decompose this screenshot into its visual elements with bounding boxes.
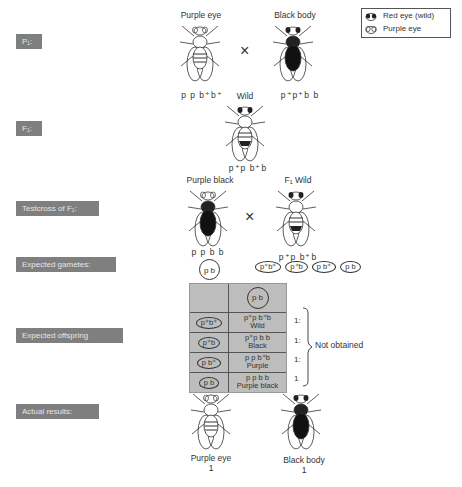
fly-purple-eye-result bbox=[191, 388, 235, 454]
fly-wild-f1 bbox=[225, 100, 269, 166]
red-eye-icon bbox=[365, 11, 377, 21]
legend-box: Red eye (wild) Purple eye bbox=[361, 8, 451, 38]
ratio: 1: bbox=[294, 316, 301, 325]
stage-label-gametes: Expected gametes: bbox=[16, 257, 116, 272]
legend-item-purple-eye: Purple eye bbox=[362, 22, 450, 35]
offspring-phenotype: Purple black bbox=[229, 382, 286, 390]
f1-genotype: p⁺p b⁺b bbox=[226, 163, 270, 173]
legend-label: Red eye (wild) bbox=[383, 11, 434, 20]
brace-icon bbox=[302, 307, 314, 387]
fly-purple-eye bbox=[180, 20, 224, 86]
gamete: p⁺b⁺ bbox=[196, 317, 222, 329]
legend-label: Purple eye bbox=[383, 24, 421, 33]
fly-f1-wild bbox=[276, 185, 320, 251]
p1-right-caption: Black body bbox=[270, 10, 320, 20]
p1-left-caption: Purple eye bbox=[176, 10, 226, 20]
gamete: p⁺b bbox=[285, 261, 307, 273]
fly-black-body-result bbox=[281, 388, 325, 454]
stage-label-f1: F₁: bbox=[16, 121, 42, 136]
punnett-header-gamete: p b bbox=[247, 287, 269, 309]
fly-black-body bbox=[273, 20, 317, 86]
gamete: p b bbox=[340, 261, 360, 273]
purple-eye-icon bbox=[365, 24, 377, 34]
testcross-right-caption: F₁ Wild bbox=[278, 175, 318, 185]
gamete: p b bbox=[199, 377, 219, 389]
offspring-phenotype: Black bbox=[229, 342, 286, 350]
punnett-corner bbox=[190, 284, 229, 312]
gamete: p b⁺ bbox=[197, 357, 221, 369]
testcross-left-genotype: p p b b bbox=[188, 247, 228, 257]
actual-left-count: 1 bbox=[206, 463, 216, 473]
not-obtained-note: Not obtained bbox=[315, 340, 363, 350]
gamete: p⁺b bbox=[198, 337, 220, 349]
offspring-phenotype: Purple bbox=[229, 362, 286, 370]
offspring-phenotype: Wild bbox=[229, 322, 286, 330]
testcross-left-caption: Purple black bbox=[182, 175, 238, 185]
legend-item-red-eye: Red eye (wild) bbox=[362, 9, 450, 22]
p1-left-genotype: p p b⁺b⁺ bbox=[174, 90, 230, 100]
punnett-header: p b bbox=[190, 284, 286, 312]
actual-left-caption: Purple eye bbox=[186, 453, 236, 463]
stage-label-testcross: Testcross of F₁: bbox=[16, 201, 99, 216]
gamete: p⁺b⁺ bbox=[255, 261, 281, 273]
stage-label-offspring: Expected offspring bbox=[16, 328, 123, 343]
gametes-f1-list: p⁺b⁺ p⁺b p b⁺ p b bbox=[255, 261, 361, 273]
stage-label-actual: Actual results: bbox=[16, 404, 99, 419]
actual-right-count: 1 bbox=[299, 465, 309, 475]
ratio: 1 bbox=[294, 374, 298, 383]
gamete: p b⁺ bbox=[312, 261, 336, 273]
punnett-square: p b p⁺b⁺ p⁺p b⁺bWild p⁺b p⁺p b bBlack p … bbox=[189, 283, 287, 393]
p1-right-genotype: p⁺p⁺b b bbox=[278, 90, 322, 100]
stage-label-p1: P₁: bbox=[16, 34, 42, 49]
cross-symbol: × bbox=[245, 208, 254, 226]
punnett-row: p⁺b p⁺p b bBlack bbox=[190, 332, 286, 352]
punnett-row: p b⁺ p p b⁺bPurple bbox=[190, 352, 286, 372]
actual-right-caption: Black body bbox=[279, 455, 329, 465]
gamete-testcross-left: p b bbox=[199, 259, 220, 280]
ratio: 1: bbox=[294, 355, 301, 364]
cross-symbol: × bbox=[240, 42, 249, 60]
punnett-row: p⁺b⁺ p⁺p b⁺bWild bbox=[190, 312, 286, 332]
fly-purple-black bbox=[188, 185, 232, 251]
ratio: 1: bbox=[294, 336, 301, 345]
